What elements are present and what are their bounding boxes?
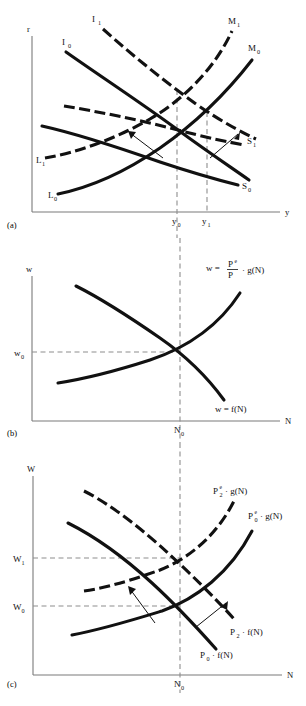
label-supply-denominator: P (228, 270, 233, 280)
tick-w0-sub: 0 (22, 607, 25, 614)
curve-labor-supply-b (58, 293, 240, 383)
label-p0-f: P 0 · f(N) (200, 650, 233, 662)
label-i1-sub: 1 (98, 19, 101, 26)
tick-w0-c: W 0 (13, 602, 25, 614)
tick-w0-sub: 0 (21, 353, 24, 360)
panel-a-arrow-2-line (210, 134, 238, 158)
panel-b-chart: w N w = P e P · g(N) w = f(N) w 0 N 0 (0, 238, 306, 443)
tick-n0-text: N (174, 425, 181, 435)
tick-y0: y 0 (172, 216, 181, 228)
panel-b-real-wage-market: w N w = P e P · g(N) w = f(N) w 0 N 0 (0, 238, 306, 443)
label-p0-f-sub: 0 (207, 655, 210, 662)
label-s0-text: S (242, 181, 247, 191)
label-l0-text: L (48, 190, 54, 200)
panel-c-chart: W N P 2 e · g(N) P 0 e · g(N) P 2 · f(N) (0, 443, 306, 706)
label-p2-f-sub: 2 (237, 632, 240, 639)
tick-n0-sub: 0 (181, 684, 184, 691)
tick-w0-text: w (14, 348, 21, 358)
label-labor-demand-b: w = f(N) (215, 404, 247, 414)
panel-c-y-axis-label: W (27, 464, 36, 474)
label-m0-text: M (248, 43, 256, 53)
tick-n0-text: N (174, 679, 181, 689)
panel-a-caption: (a) (7, 220, 17, 230)
label-l0: L 0 (48, 190, 57, 202)
panel-a-money-market: r y I 1 I 0 M 1 M 0 L 1 (0, 0, 306, 238)
label-p0e-g-base: P (248, 511, 253, 521)
label-p2e-g: P 2 e · g(N) (213, 484, 247, 498)
curve-l0 (58, 60, 252, 194)
label-i0-text: I (62, 37, 65, 47)
tick-y1: y 1 (202, 216, 211, 228)
label-m0-sub: 0 (257, 48, 260, 55)
panel-b-x-axis-label: N (285, 416, 292, 426)
panel-a-y-axis-label: r (27, 24, 30, 34)
label-p2e-g-base: P (213, 486, 218, 496)
label-l1-text: L (36, 155, 42, 165)
label-p0e-g-rest: · g(N) (260, 511, 282, 521)
tick-y1-text: y (202, 216, 207, 226)
label-m0: M 0 (248, 43, 260, 55)
panel-b-y-axis-label: w (26, 264, 33, 274)
label-p2e-g-sup: e (220, 484, 223, 490)
curve-labor-demand-b (76, 286, 224, 400)
label-p2-f-base: P (230, 627, 235, 637)
label-labor-supply-b: w = P e P · g(N) (206, 258, 264, 280)
tick-w1-c: W 1 (13, 554, 25, 566)
tick-w1-sub: 1 (22, 559, 25, 566)
label-supply-numerator: P (228, 259, 233, 269)
label-s0-sub: 0 (248, 186, 251, 193)
label-s1-text: S (247, 136, 252, 146)
label-p0e-g: P 0 e · g(N) (248, 509, 282, 523)
panel-c-x-axis-label: N (287, 670, 294, 680)
label-l1-sub: 1 (42, 160, 45, 167)
label-i0: I 0 (62, 37, 71, 49)
label-p2-f-rest: · f(N) (242, 627, 263, 637)
label-i1-text: I (92, 14, 95, 24)
tick-n0-c: N 0 (174, 679, 184, 691)
label-m1: M 1 (228, 16, 240, 28)
tick-n0-sub: 0 (181, 430, 184, 437)
label-l1: L 1 (36, 155, 45, 167)
label-supply-suffix: · g(N) (242, 265, 264, 275)
panel-a-x-axis-label: y (285, 207, 290, 217)
label-l0-sub: 0 (54, 195, 57, 202)
label-m1-text: M (228, 16, 236, 26)
tick-y1-sub: 1 (208, 221, 211, 228)
label-p2e-g-sub: 2 (220, 491, 223, 498)
panel-a-chart: r y I 1 I 0 M 1 M 0 L 1 (0, 0, 306, 238)
tick-y0-text: y (172, 216, 177, 226)
label-i0-sub: 0 (68, 42, 71, 49)
label-i1: I 1 (92, 14, 101, 26)
label-p0-f-base: P (200, 650, 205, 660)
label-p2e-g-rest: · g(N) (225, 486, 247, 496)
tick-n0-b: N 0 (174, 425, 184, 437)
tick-w0-b: w 0 (14, 348, 24, 360)
figure-bottom-cut-text (8, 699, 298, 706)
panel-c-nominal-wage-market: W N P 2 e · g(N) P 0 e · g(N) P 2 · f(N) (0, 443, 306, 706)
label-p0-f-rest: · f(N) (212, 650, 233, 660)
curve-s0 (42, 126, 238, 185)
tick-y0-sub: 0 (178, 221, 181, 228)
label-s1-sub: 1 (253, 141, 256, 148)
panel-a-arrow-1-head (128, 131, 136, 139)
curve-p2-f (84, 491, 234, 619)
label-supply-prefix: w = (206, 263, 220, 273)
panel-c-caption: (c) (7, 679, 17, 689)
label-supply-numerator-sup: e (235, 258, 238, 264)
label-p0e-g-sup: e (255, 509, 258, 515)
figure-root: r y I 1 I 0 M 1 M 0 L 1 (0, 0, 306, 706)
label-p0e-g-sub: 0 (255, 516, 258, 523)
panel-b-caption: (b) (7, 428, 17, 438)
panel-c-arrow-1-head (128, 586, 136, 595)
label-m1-sub: 1 (237, 21, 240, 28)
label-s0: S 0 (242, 181, 251, 193)
label-p2-f: P 2 · f(N) (230, 627, 263, 639)
